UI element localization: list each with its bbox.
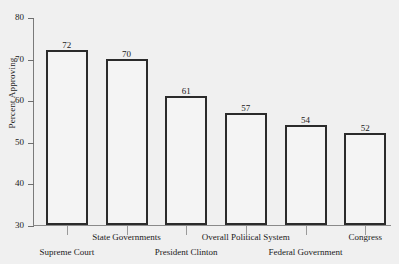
x-axis-category-label: Federal Government — [268, 247, 342, 257]
bar-value-label: 61 — [182, 86, 191, 96]
x-axis-category-label: Congress — [348, 232, 382, 242]
y-tick-label: 70 — [15, 54, 24, 64]
bar: 57 — [225, 113, 267, 225]
y-axis-line — [33, 18, 34, 226]
x-axis-category-label: Supreme Court — [39, 247, 94, 257]
y-tick-30: 30 — [28, 226, 34, 227]
plot-area: 304050607080 727061575452 — [33, 18, 391, 226]
x-axis-line — [33, 225, 391, 226]
bar-chart: Percent Approving 304050607080 727061575… — [0, 0, 399, 264]
bar: 70 — [106, 59, 148, 225]
bar: 52 — [344, 133, 386, 225]
x-axis-category-label: Overall Political System — [202, 232, 290, 242]
y-tick-60: 60 — [28, 101, 34, 102]
bar-value-label: 70 — [122, 49, 131, 59]
y-tick-label: 80 — [15, 12, 24, 22]
y-tick-label: 30 — [15, 220, 24, 230]
y-tick-40: 40 — [28, 184, 34, 185]
bar-value-label: 72 — [62, 40, 71, 50]
y-tick-80: 80 — [28, 18, 34, 19]
x-tick — [67, 226, 68, 235]
x-tick — [306, 226, 307, 235]
x-axis-category-label: President Clinton — [155, 247, 218, 257]
x-tick — [186, 226, 187, 235]
bar: 72 — [46, 50, 88, 225]
y-tick-50: 50 — [28, 143, 34, 144]
bar-value-label: 54 — [301, 115, 310, 125]
y-tick-label: 40 — [15, 178, 24, 188]
bar: 61 — [165, 96, 207, 225]
y-tick-label: 60 — [15, 95, 24, 105]
bar: 54 — [285, 125, 327, 225]
bar-value-label: 52 — [361, 123, 370, 133]
y-tick-70: 70 — [28, 60, 34, 61]
y-tick-label: 50 — [15, 137, 24, 147]
bar-value-label: 57 — [241, 103, 250, 113]
x-axis-category-label: State Governments — [92, 232, 161, 242]
